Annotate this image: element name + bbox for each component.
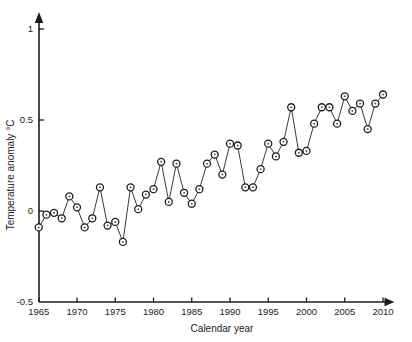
data-point-center-dot [313,123,315,125]
x-tick-label: 2010 [372,306,393,317]
data-point-center-dot [122,241,124,243]
x-tick-label: 1990 [219,306,240,317]
data-point-center-dot [183,192,185,194]
x-axis-label: Calendar year [191,323,254,334]
data-point-center-dot [168,201,170,203]
axes-group [35,12,395,306]
data-point-center-dot [306,150,308,152]
y-tick-label: 1 [28,23,33,34]
data-point-center-dot [244,186,246,188]
data-point-center-dot [76,206,78,208]
y-axis-ticks: -0.500.51 [17,23,44,307]
y-axis-arrow-icon [35,12,43,23]
data-point-center-dot [114,221,116,223]
data-point-center-dot [290,106,292,108]
x-tick-label: 2005 [334,306,355,317]
x-tick-label: 1985 [181,306,202,317]
x-tick-label: 1995 [258,306,279,317]
data-point-center-dot [267,143,269,145]
data-point-center-dot [175,163,177,165]
data-point-center-dot [321,106,323,108]
chart-figure: 1965197019751980198519901995200020052010… [0,0,412,342]
x-tick-label: 2000 [296,306,317,317]
data-point-center-dot [351,110,353,112]
y-tick-label: 0 [28,205,33,216]
data-point-center-dot [229,143,231,145]
x-tick-label: 1970 [66,306,87,317]
data-point-center-dot [137,208,139,210]
x-tick-label: 1980 [143,306,164,317]
data-point-center-dot [367,128,369,130]
data-point-center-dot [336,123,338,125]
x-tick-label: 1975 [105,306,126,317]
y-tick-label: -0.5 [17,296,33,307]
data-point-center-dot [45,214,47,216]
data-point-center-dot [237,144,239,146]
data-point-center-dot [153,188,155,190]
data-point-center-dot [38,226,40,228]
temperature-anomaly-line-chart: 1965197019751980198519901995200020052010… [0,0,412,342]
data-point-center-dot [68,195,70,197]
data-point-center-dot [198,188,200,190]
y-axis-label: Temperature anomaly °C [5,120,16,231]
data-point-center-dot [359,103,361,105]
x-tick-label: 1965 [28,306,49,317]
data-point-center-dot [221,174,223,176]
data-point-center-dot [214,154,216,156]
data-point-center-dot [130,186,132,188]
data-point-center-dot [53,212,55,214]
data-point-center-dot [275,155,277,157]
data-point-center-dot [252,186,254,188]
x-axis-arrow-icon [384,298,394,306]
data-series-temperature-anomaly [35,91,386,245]
y-tick-label: 0.5 [20,114,33,125]
data-point-center-dot [283,141,285,143]
x-axis-ticks: 1965197019751980198519901995200020052010 [28,298,393,318]
data-point-center-dot [84,226,86,228]
data-point-center-dot [382,94,384,96]
data-point-center-dot [107,225,109,227]
series-markers [35,91,386,245]
data-point-center-dot [374,103,376,105]
data-point-center-dot [99,186,101,188]
data-point-center-dot [206,163,208,165]
data-point-center-dot [344,95,346,97]
data-point-center-dot [260,168,262,170]
data-point-center-dot [160,161,162,163]
data-point-center-dot [145,194,147,196]
data-point-center-dot [191,203,193,205]
data-point-center-dot [328,106,330,108]
data-point-center-dot [298,152,300,154]
data-point-center-dot [91,217,93,219]
data-point-center-dot [61,217,63,219]
